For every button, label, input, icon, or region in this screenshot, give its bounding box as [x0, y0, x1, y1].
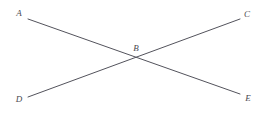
point-label-a: A — [16, 9, 22, 18]
point-label-e: E — [245, 94, 251, 103]
geometry-diagram: A C B D E — [0, 0, 264, 113]
point-label-d: D — [16, 95, 23, 104]
point-label-b: B — [133, 44, 139, 53]
point-label-c: C — [244, 10, 250, 19]
diagram-canvas — [0, 0, 264, 113]
